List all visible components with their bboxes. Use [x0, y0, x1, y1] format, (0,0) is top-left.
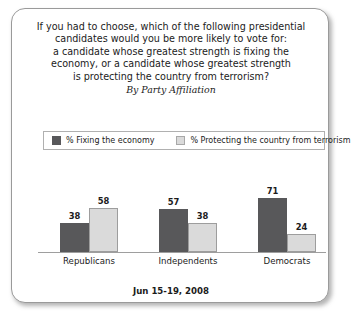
bar-value-democrats-terrorism: 24 — [296, 222, 308, 232]
light-swatch-icon — [176, 136, 185, 145]
bar-democrats-economy — [258, 198, 287, 252]
title-line-1: If you had to choose, which of the follo… — [22, 21, 320, 33]
dark-swatch-icon — [52, 136, 61, 145]
bar-independents-economy — [159, 209, 188, 252]
chart-legend: % Fixing the economy % Protecting the co… — [43, 131, 325, 150]
category-label-democrats: Democrats — [217, 256, 355, 266]
legend-label-fixing-economy: % Fixing the economy — [66, 136, 154, 145]
bar-republicans-economy — [60, 223, 89, 252]
bar-independents-terrorism — [188, 223, 217, 252]
chart-card: If you had to choose, which of the follo… — [11, 8, 329, 303]
bar-value-republicans-terrorism: 58 — [98, 196, 110, 206]
title-line-5: is protecting the country from terrorism… — [22, 71, 320, 83]
bar-democrats-terrorism — [287, 234, 316, 252]
chart-footer-date: Jun 15-19, 2008 — [22, 286, 320, 296]
bar-value-republicans-economy: 38 — [69, 211, 81, 221]
legend-label-protecting-country: % Protecting the country from terrorism — [190, 136, 350, 145]
legend-item-fixing-economy: % Fixing the economy — [52, 136, 154, 145]
title-line-4: economy, or a candidate whose greatest s… — [22, 58, 320, 70]
bar-wrap-democrats-economy: 71 — [258, 161, 287, 252]
title-line-2: candidates would you be more likely to v… — [22, 33, 320, 45]
bar-wrap-independents-terrorism: 38 — [188, 161, 217, 252]
bar-group-bars: 71 24 — [258, 161, 316, 252]
bar-wrap-independents-economy: 57 — [159, 161, 188, 252]
baseline-axis — [38, 252, 326, 253]
chart-plot-area: 38 58 Republicans 57 38 — [34, 161, 330, 253]
chart-title-block: If you had to choose, which of the follo… — [22, 21, 320, 96]
bar-group-bars: 38 58 — [60, 161, 118, 252]
title-line-3: a candidate whose greatest strength is f… — [22, 46, 320, 58]
bar-wrap-democrats-terrorism: 24 — [287, 161, 316, 252]
bar-republicans-terrorism — [89, 208, 118, 252]
legend-item-protecting-country: % Protecting the country from terrorism — [176, 136, 350, 145]
bar-value-independents-economy: 57 — [168, 197, 180, 207]
bar-group-bars: 57 38 — [159, 161, 217, 252]
bar-value-independents-terrorism: 38 — [197, 211, 209, 221]
bar-value-democrats-economy: 71 — [267, 186, 279, 196]
bar-wrap-republicans-terrorism: 58 — [89, 161, 118, 252]
bar-wrap-republicans-economy: 38 — [60, 161, 89, 252]
chart-subtitle: By Party Affiliation — [22, 84, 320, 96]
